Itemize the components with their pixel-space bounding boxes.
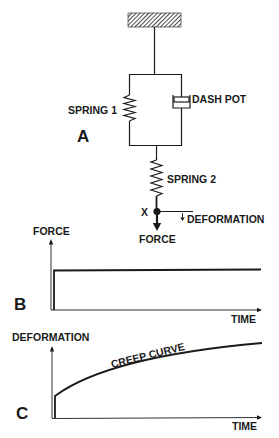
b-x-axis-arrow-icon bbox=[257, 308, 262, 312]
c-x-axis-arrow-icon bbox=[257, 415, 262, 419]
fixed-support-icon bbox=[128, 13, 181, 27]
spring-1-icon bbox=[124, 74, 135, 146]
panel-b-chart bbox=[49, 239, 262, 312]
c-x-axis-label: TIME bbox=[232, 420, 257, 432]
spring-1-label: SPRING 1 bbox=[68, 104, 117, 116]
dashpot-icon bbox=[173, 74, 190, 146]
force-arrow-icon bbox=[153, 214, 161, 231]
deformation-arrow-icon bbox=[180, 213, 184, 221]
c-y-axis-label: DEFORMATION bbox=[12, 331, 89, 343]
panel-b-letter: B bbox=[14, 295, 26, 314]
c-x-axis bbox=[52, 418, 259, 419]
c-y-axis-arrow-icon bbox=[50, 346, 54, 352]
b-y-axis-label: FORCE bbox=[33, 225, 70, 237]
deformation-label: DEFORMATION bbox=[187, 213, 264, 225]
force-label: FORCE bbox=[139, 233, 176, 245]
b-force-step-line bbox=[54, 270, 261, 311]
panel-c-letter: C bbox=[16, 404, 28, 423]
panel-a-letter: A bbox=[77, 127, 89, 146]
b-x-axis-label: TIME bbox=[231, 313, 256, 325]
spring-2-label: SPRING 2 bbox=[167, 173, 216, 185]
panel-a-model bbox=[124, 13, 193, 231]
node-x-label: X bbox=[141, 206, 148, 218]
figure: SPRING 1 DASH POT A SPRING 2 X DEFORMATI… bbox=[0, 0, 279, 438]
b-y-axis-arrow-icon bbox=[49, 239, 53, 245]
spring-2-icon bbox=[151, 146, 162, 211]
dashpot-label: DASH POT bbox=[192, 93, 247, 105]
